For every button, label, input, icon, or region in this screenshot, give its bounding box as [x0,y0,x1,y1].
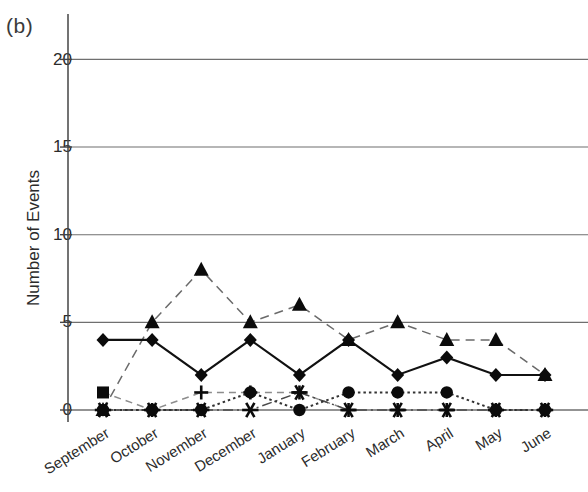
marker-triangle [439,332,454,346]
marker-triangle [243,314,258,328]
marker-triangle [292,297,307,311]
marker-diamond [440,350,453,364]
series-line-star [103,392,545,410]
marker-diamond [97,333,110,347]
marker-square [97,386,109,398]
marker-circle [342,386,354,398]
marker-circle [441,386,453,398]
marker-triangle [390,314,405,328]
series-star [103,392,545,410]
series-line-triangle [103,270,545,410]
figure-panel-b: (b) Number of Events 0 5 10 15 20 Septem… [0,0,588,492]
marker-circle [391,386,403,398]
series-markers-triangle [96,262,553,416]
marker-diamond [195,368,208,382]
marker-circle [146,404,158,416]
marker-circle [490,404,502,416]
marker-triangle [194,262,209,276]
plot-area [0,0,588,492]
marker-diamond [146,333,159,347]
marker-circle [539,404,551,416]
marker-circle [97,404,109,416]
marker-diamond [391,368,404,382]
marker-circle [195,404,207,416]
marker-circle [293,404,305,416]
series-diamond [103,340,545,375]
marker-circle [244,386,256,398]
marker-triangle [488,332,503,346]
series-triangle [103,270,545,410]
series-line-diamond [103,340,545,375]
marker-diamond [244,333,257,347]
marker-diamond [293,368,306,382]
marker-diamond [489,368,502,382]
